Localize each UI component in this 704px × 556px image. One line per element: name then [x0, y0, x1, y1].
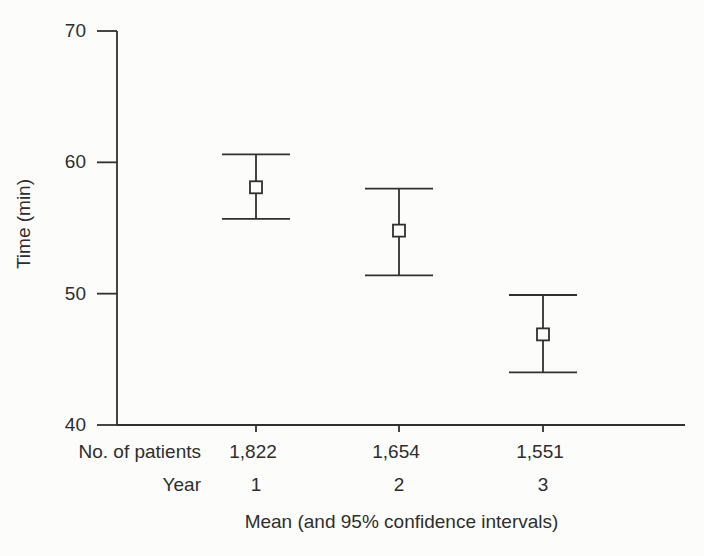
patients-count: 1,822: [193, 441, 313, 463]
year-value: 1: [196, 474, 316, 496]
mean-marker-square: [393, 225, 405, 237]
errorbar-year-3: [509, 295, 577, 372]
mean-marker-square: [537, 328, 549, 340]
y-tick-label: 40: [65, 414, 86, 436]
errorbar-figure: Time (min) No. of patients Year Mean (an…: [0, 0, 704, 556]
patients-count: 1,654: [336, 441, 456, 463]
plot-area: [0, 0, 704, 556]
patients-count: 1,551: [480, 441, 600, 463]
y-tick-label: 50: [65, 283, 86, 305]
errorbar-year-1: [222, 154, 290, 218]
patients-row-label: No. of patients: [78, 441, 201, 463]
y-axis-title: Time (min): [12, 144, 36, 304]
y-tick-label: 70: [65, 20, 86, 42]
figure-caption: Mean (and 95% confidence intervals): [200, 511, 603, 533]
errorbar-year-2: [365, 189, 433, 276]
year-value: 3: [483, 474, 603, 496]
y-tick-label: 60: [65, 151, 86, 173]
mean-marker-square: [250, 181, 262, 193]
year-value: 2: [339, 474, 459, 496]
